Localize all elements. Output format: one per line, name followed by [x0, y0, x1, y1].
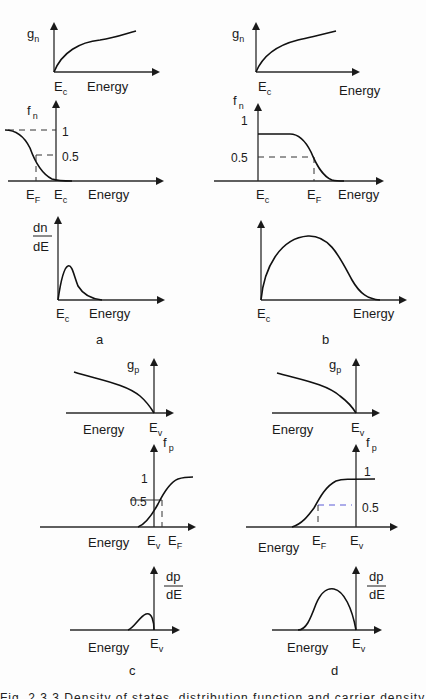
panel-a-carrier-density: dn dE Ec Energy — [33, 218, 163, 324]
x-label: Energy — [258, 540, 300, 555]
gn-curve — [256, 31, 336, 72]
y-label-denominator: dE — [33, 239, 49, 254]
x-label: Energy — [353, 306, 395, 321]
y-label: fn — [233, 93, 244, 111]
gp-curve — [277, 373, 356, 413]
tick-1: 1 — [364, 465, 371, 479]
panel-d-density-of-states: gp Energy Ev — [272, 357, 378, 438]
edge-label: Ec — [54, 187, 68, 205]
dn-curve — [58, 266, 102, 300]
y-label-numerator: dp — [369, 569, 383, 584]
panel-label-d: d — [331, 663, 338, 678]
x-label: Energy — [88, 535, 130, 550]
figure-canvas: gn Ec Energy 1 0.5 fn EF Ec Energy dn dE — [0, 0, 426, 699]
ef-label: EF — [26, 187, 41, 205]
x-label: Energy — [338, 187, 380, 202]
panel-d: gp Energy Ev 1 0.5 fp Energy EF Ev dp dE… — [246, 357, 396, 678]
ef-label: EF — [312, 533, 327, 551]
y-label: gn — [27, 26, 39, 44]
panel-d-distribution-function: 1 0.5 fp Energy EF Ev — [246, 435, 396, 555]
tick-0-5: 0.5 — [231, 151, 248, 165]
dp-curve — [128, 614, 154, 630]
panel-d-carrier-density: dp dE Energy Ev — [272, 568, 386, 655]
panel-b-distribution-function: 1 0.5 fn Ec EF Energy — [214, 93, 382, 205]
caption-text: Fig. 2.3.3 Density of states, distributi… — [0, 691, 426, 699]
dn-curve — [261, 236, 380, 300]
gp-curve — [74, 372, 154, 413]
panel-b-carrier-density: Ec Energy — [257, 222, 405, 324]
y-label: fp — [163, 435, 174, 453]
edge-label: Ec — [56, 306, 70, 324]
y-label: gp — [329, 357, 341, 375]
y-label: fn — [27, 103, 38, 121]
edge-label: Ev — [352, 636, 366, 654]
y-label-denominator: dE — [166, 587, 182, 602]
panel-c-density-of-states: gp Energy Ev — [66, 357, 172, 438]
x-label: Energy — [287, 640, 329, 655]
x-label: Energy — [89, 306, 131, 321]
y-label-numerator: dp — [166, 569, 180, 584]
tick-0-5: 0.5 — [62, 150, 79, 164]
panel-label-b: b — [322, 332, 329, 347]
edge-label: Ec — [54, 79, 68, 97]
tick-0-5: 0.5 — [130, 495, 147, 509]
edge-label: Ec — [258, 79, 272, 97]
x-label: Energy — [272, 422, 314, 437]
x-label: Energy — [88, 640, 130, 655]
tick-1: 1 — [141, 472, 148, 486]
tick-0-5: 0.5 — [362, 501, 379, 515]
panel-a-density-of-states: gn Ec Energy — [27, 24, 158, 97]
panel-a: gn Ec Energy 1 0.5 fn EF Ec Energy dn dE — [5, 24, 163, 347]
panel-c-carrier-density: dp dE Energy Ev — [70, 568, 183, 655]
gn-curve — [54, 31, 136, 72]
x-label: Energy — [88, 187, 130, 202]
edge-label: Ec — [256, 187, 270, 205]
y-label: gp — [127, 357, 139, 375]
panel-c-distribution-function: 1 0.5 fp Energy Ev EF — [40, 435, 194, 551]
panel-a-distribution-function: 1 0.5 fn EF Ec Energy — [5, 102, 162, 205]
ef-label: EF — [307, 187, 322, 205]
panel-b-density-of-states: gn Ec Energy — [232, 24, 381, 98]
panel-label-a: a — [96, 332, 104, 347]
edge-label: Ev — [147, 533, 161, 551]
panel-label-c: c — [129, 663, 136, 678]
panel-c: gp Energy Ev 1 0.5 fp Energy Ev EF dp dE… — [40, 357, 194, 678]
y-label: gn — [232, 26, 244, 44]
dp-curve — [298, 589, 356, 630]
y-label: fp — [366, 435, 377, 453]
y-label-denominator: dE — [369, 587, 385, 602]
edge-label: Ec — [257, 306, 271, 324]
edge-label: Ev — [149, 420, 163, 438]
x-label: Energy — [339, 83, 381, 98]
edge-label: Ev — [150, 636, 164, 654]
panel-b: gn Ec Energy 1 0.5 fn Ec EF Energy Ec En… — [214, 24, 405, 347]
edge-label: Ev — [350, 533, 364, 551]
tick-1: 1 — [241, 114, 248, 128]
x-label: Energy — [87, 79, 129, 94]
tick-1: 1 — [62, 125, 69, 139]
figure-caption: Fig. 2.3.3 Density of states, distributi… — [0, 691, 426, 699]
x-label: Energy — [83, 422, 125, 437]
edge-label: Ev — [351, 420, 365, 438]
ef-label: EF — [168, 533, 183, 551]
y-label-numerator: dn — [33, 220, 47, 235]
